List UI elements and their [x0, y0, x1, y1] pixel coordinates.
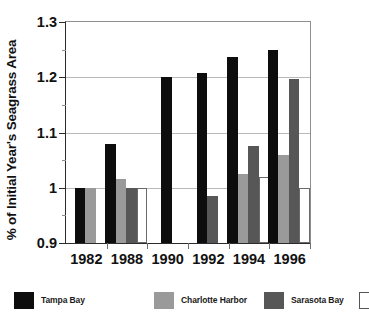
legend-item-sarasota-bay[interactable]: Sarasota Bay — [264, 289, 344, 311]
bar-lemon-bay-1988 — [137, 188, 148, 243]
legend-swatch-sarasota-bay — [264, 292, 284, 309]
bar-tampa-bay-1988 — [105, 144, 116, 243]
x-axis-tick-label: 1996 — [274, 251, 306, 267]
y-axis-tick-label: 1 — [49, 180, 57, 196]
legend-swatch-lemon-bay — [359, 292, 369, 309]
y-axis-tick-label: 1.3 — [37, 14, 57, 30]
chart-legend: Tampa BayCharlotte HarborSarasota BayLem… — [14, 289, 359, 313]
y-axis-minor-tick — [62, 215, 66, 216]
y-axis-tick-label: 0.9 — [37, 235, 57, 251]
y-axis-tick — [59, 77, 66, 78]
legend-item-lemon-bay[interactable]: Lemon Bay — [359, 289, 369, 311]
y-axis-title: % of Initial Year's Seagrass Area — [2, 15, 22, 265]
x-axis-tick-label: 1982 — [70, 251, 102, 267]
x-axis-tick — [229, 243, 230, 249]
x-axis-tick — [310, 243, 311, 249]
bar-sarasota-bay-1988 — [126, 188, 137, 243]
bar-sarasota-bay-1996 — [289, 79, 300, 243]
x-axis-tick — [147, 243, 148, 249]
legend-swatch-tampa-bay — [14, 292, 34, 309]
x-axis-tick-label: 1994 — [233, 251, 265, 267]
bar-tampa-bay-1982 — [75, 188, 86, 243]
legend-label: Charlotte Harbor — [181, 295, 247, 305]
legend-label: Sarasota Bay — [291, 295, 344, 305]
bar-charlotte-harbor-1982 — [85, 188, 96, 243]
bar-tampa-bay-1990 — [161, 77, 172, 243]
x-axis-tick-label: 1988 — [111, 251, 143, 267]
bar-charlotte-harbor-1988 — [116, 179, 127, 243]
bar-tampa-bay-1996 — [268, 50, 279, 243]
y-axis-tick — [59, 243, 66, 244]
y-axis-tick — [59, 133, 66, 134]
x-axis-tick — [107, 243, 108, 249]
x-axis-tick — [269, 243, 270, 249]
y-axis-minor-tick — [62, 160, 66, 161]
y-axis-tick — [59, 22, 66, 23]
y-axis-minor-tick — [62, 50, 66, 51]
plot-area: 0.911.11.21.3 198219881990199219941996 — [65, 21, 311, 244]
bar-tampa-bay-1994 — [227, 57, 238, 243]
y-axis-minor-tick — [62, 105, 66, 106]
y-axis-tick-label: 1.1 — [37, 125, 57, 141]
x-axis-tick-label: 1992 — [192, 251, 224, 267]
bar-tampa-bay-1992 — [197, 73, 208, 243]
legend-label: Tampa Bay — [41, 295, 85, 305]
legend-item-tampa-bay[interactable]: Tampa Bay — [14, 289, 85, 311]
legend-swatch-charlotte-harbor — [154, 292, 174, 309]
bar-charlotte-harbor-1994 — [238, 174, 249, 243]
bar-sarasota-bay-1992 — [207, 196, 218, 243]
y-axis-tick — [59, 188, 66, 189]
x-axis-tick — [188, 243, 189, 249]
seagrass-bar-chart-figure: % of Initial Year's Seagrass Area 0.911.… — [0, 0, 369, 325]
legend-item-charlotte-harbor[interactable]: Charlotte Harbor — [154, 289, 247, 311]
bar-lemon-bay-1996 — [299, 188, 310, 243]
y-axis-tick-label: 1.2 — [37, 69, 57, 85]
bar-sarasota-bay-1994 — [248, 146, 259, 243]
bar-charlotte-harbor-1996 — [278, 155, 289, 243]
x-axis-tick-label: 1990 — [152, 251, 184, 267]
